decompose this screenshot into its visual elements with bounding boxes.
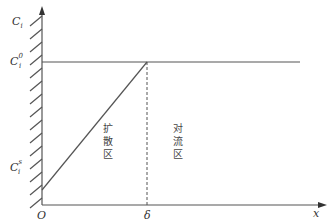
y-axis-arrow-icon [39, 6, 45, 15]
x-axis-label: x [313, 208, 319, 219]
boundary-delta-label: δ [144, 210, 151, 221]
origin-label: O [37, 210, 46, 221]
x-axis-arrow-icon [318, 202, 327, 208]
bulk-concentration-label: C0i [10, 55, 21, 70]
convection-region-label: 对 流 区 [172, 122, 184, 161]
diffusion-region-label: 扩 散 区 [102, 122, 114, 161]
concentration-gradient-line [42, 62, 147, 190]
diagram-canvas [0, 0, 330, 222]
surface-concentration-label: Csi [10, 161, 20, 176]
wall-hatch [30, 16, 42, 208]
y-axis-label: Ci [12, 16, 23, 30]
